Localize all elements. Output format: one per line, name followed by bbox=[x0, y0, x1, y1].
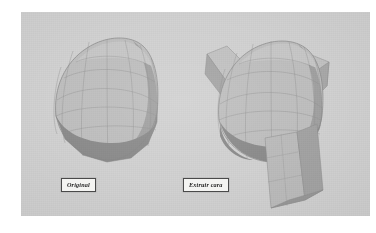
caption-original: Original bbox=[61, 178, 96, 192]
viewport-panel: Original Extruir cara bbox=[21, 12, 370, 216]
caption-extrude-face: Extruir cara bbox=[183, 178, 229, 192]
figure-root: Original Extruir cara bbox=[0, 0, 376, 233]
extrusion-bottom bbox=[265, 124, 323, 208]
